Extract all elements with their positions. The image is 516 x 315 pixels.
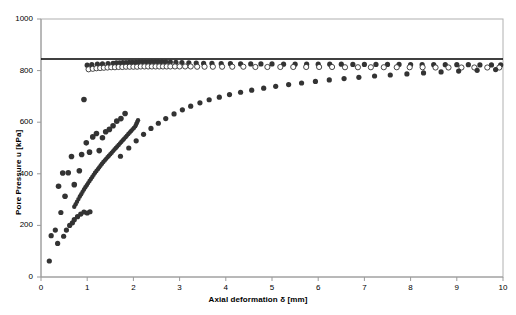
data-point	[373, 62, 378, 67]
data-point	[180, 107, 185, 112]
data-point	[65, 170, 71, 176]
data-point	[136, 118, 140, 122]
x-tick-label: 2	[121, 283, 145, 292]
x-tick-label: 6	[306, 283, 330, 292]
data-point	[407, 65, 412, 70]
data-point	[304, 64, 309, 69]
data-point	[253, 64, 258, 69]
data-point	[81, 97, 87, 103]
data-point	[148, 126, 153, 131]
y-tick-label: 600	[7, 117, 33, 126]
data-point	[329, 64, 334, 69]
data-point	[183, 64, 188, 69]
x-axis-title: Axial deformation δ [mm]	[0, 295, 516, 304]
data-point	[299, 80, 304, 85]
data-point	[493, 67, 498, 72]
data-point	[381, 65, 386, 70]
data-point	[87, 209, 92, 214]
data-point	[265, 64, 270, 69]
data-point	[118, 116, 124, 122]
data-point	[177, 64, 182, 69]
data-point	[327, 77, 332, 82]
data-point	[53, 227, 58, 232]
plot-svg	[0, 0, 516, 315]
data-point	[207, 97, 212, 102]
data-point	[195, 64, 200, 69]
data-point	[356, 75, 361, 80]
data-point	[71, 182, 77, 188]
x-tick-label: 3	[168, 283, 192, 292]
data-point	[47, 258, 52, 263]
data-point	[433, 65, 438, 70]
data-point	[87, 149, 93, 155]
data-point	[217, 95, 222, 100]
data-point	[210, 64, 215, 69]
data-point	[96, 148, 102, 154]
data-point	[350, 62, 355, 67]
data-point	[163, 116, 168, 121]
x-tick-label: 5	[260, 283, 284, 292]
data-point	[202, 64, 207, 69]
data-point	[258, 61, 263, 66]
data-point	[372, 73, 377, 78]
data-point	[77, 168, 83, 174]
data-point	[110, 123, 116, 129]
data-point	[126, 145, 131, 150]
plot-border	[41, 19, 503, 277]
x-tick-label: 0	[29, 283, 53, 292]
data-point	[248, 61, 253, 66]
data-point	[355, 65, 360, 70]
data-point	[249, 88, 254, 93]
data-point	[122, 111, 128, 117]
y-tick-label: 1000	[7, 14, 33, 23]
data-point	[388, 72, 393, 77]
data-point	[55, 241, 60, 246]
x-tick-label: 9	[445, 283, 469, 292]
data-point	[79, 152, 85, 158]
data-point	[291, 64, 296, 69]
data-point	[485, 65, 490, 70]
data-point	[220, 64, 225, 69]
x-tick-label: 8	[399, 283, 423, 292]
chart-container: Pore Pressure u [kPa] Axial deformation …	[0, 0, 516, 315]
data-point	[56, 183, 62, 189]
data-point	[341, 76, 346, 81]
data-point	[61, 234, 66, 239]
data-point	[269, 61, 274, 66]
data-point	[134, 138, 139, 143]
data-point	[141, 132, 146, 137]
y-tick-label: 200	[7, 220, 33, 229]
data-point	[197, 100, 202, 105]
data-point	[420, 65, 425, 70]
x-tick-label: 7	[352, 283, 376, 292]
data-point	[238, 90, 243, 95]
y-tick-label: 400	[7, 169, 33, 178]
data-point	[156, 121, 161, 126]
x-tick-label: 4	[214, 283, 238, 292]
data-point	[404, 71, 409, 76]
data-point	[475, 68, 480, 73]
y-axis-title-wrap: Pore Pressure u [kPa]	[0, 0, 16, 290]
data-point	[278, 64, 283, 69]
data-point	[438, 69, 443, 74]
data-point	[64, 227, 69, 232]
y-tick-label: 0	[7, 272, 33, 281]
data-point	[100, 135, 106, 141]
data-point	[261, 86, 266, 91]
data-point	[188, 64, 193, 69]
data-point	[286, 82, 291, 87]
data-point	[477, 62, 482, 67]
data-point	[362, 62, 367, 67]
data-point	[342, 65, 347, 70]
data-point	[227, 92, 232, 97]
data-point	[241, 64, 246, 69]
data-point	[230, 64, 235, 69]
data-point	[94, 131, 100, 137]
data-point	[421, 70, 426, 75]
data-point	[446, 65, 451, 70]
x-tick-label: 1	[75, 283, 99, 292]
x-tick-label: 10	[491, 283, 515, 292]
data-point	[317, 64, 322, 69]
data-point	[456, 69, 461, 74]
data-point	[368, 65, 373, 70]
